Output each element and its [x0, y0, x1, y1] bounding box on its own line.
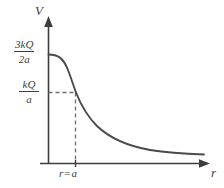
y-tick-a-denominator: a — [25, 93, 33, 105]
y-axis-label: V — [35, 4, 43, 17]
y-tick-2a-denominator: 2a — [18, 53, 31, 65]
x-tick-value: a — [72, 167, 78, 179]
y-tick-label-3kq-over-2a: 3kQ 2a — [14, 38, 34, 65]
x-axis-label: r — [211, 166, 216, 179]
x-tick-label-r-equals-a: r=a — [59, 168, 77, 179]
y-tick-kq-numerator: kQ — [22, 78, 37, 90]
y-axis — [44, 16, 53, 164]
y-axis-arrowhead — [44, 16, 53, 27]
fraction-bar — [19, 91, 39, 92]
potential-vs-radius-figure: V r 3kQ 2a kQ a r=a — [0, 0, 224, 188]
x-axis-arrowhead — [199, 159, 210, 168]
potential-curve — [49, 55, 205, 155]
y-tick-3kq-numerator: 3kQ — [14, 38, 34, 50]
fraction-bar — [14, 51, 34, 52]
y-tick-label-kq-over-a: kQ a — [19, 78, 39, 105]
x-tick-operator: = — [63, 167, 71, 179]
